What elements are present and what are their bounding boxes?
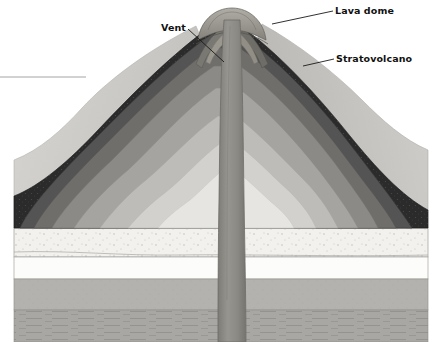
stratovolcano-cross-section-figure xyxy=(0,0,442,342)
label-vent: Vent xyxy=(161,22,186,33)
diagram-canvas: Lava dome Stratovolcano Vent xyxy=(0,0,442,342)
lava-dome-leader xyxy=(272,11,333,24)
label-lava-dome: Lava dome xyxy=(335,5,394,16)
label-stratovolcano: Stratovolcano xyxy=(336,53,412,64)
volcanic-conduit xyxy=(218,20,246,342)
